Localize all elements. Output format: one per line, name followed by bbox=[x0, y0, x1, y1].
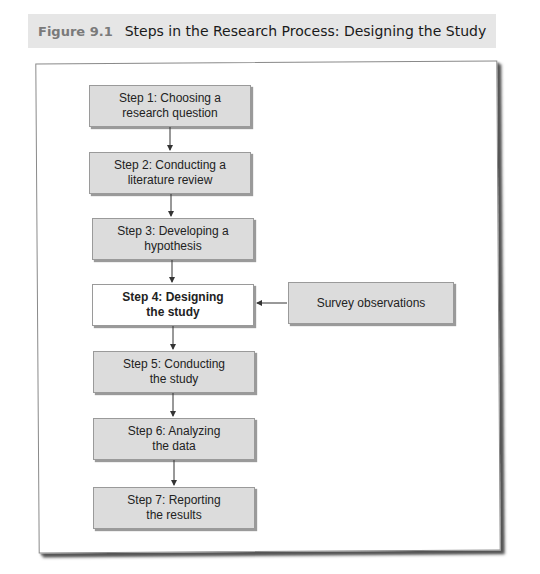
step-2-line2: literature review bbox=[128, 173, 213, 188]
step-3-line2: hypothesis bbox=[144, 239, 201, 254]
step-box-6: Step 6: Analyzing the data bbox=[93, 418, 255, 460]
step-box-3: Step 3: Developing a hypothesis bbox=[92, 218, 254, 260]
step-7-line1: Step 7: Reporting bbox=[127, 493, 220, 508]
step-box-5: Step 5: Conducting the study bbox=[93, 351, 255, 393]
step-5-line2: the study bbox=[150, 372, 199, 387]
figure-number: Figure 9.1 bbox=[38, 24, 113, 39]
step-4-line1: Step 4: Designing bbox=[122, 290, 223, 305]
figure-caption: Figure 9.1 Steps in the Research Process… bbox=[28, 14, 496, 48]
survey-observations-box: Survey observations bbox=[288, 282, 454, 324]
step-box-2: Step 2: Conducting a literature review bbox=[89, 152, 251, 194]
step-1-line1: Step 1: Choosing a bbox=[119, 91, 221, 106]
step-box-4-active: Step 4: Designing the study bbox=[92, 284, 254, 326]
step-2-line1: Step 2: Conducting a bbox=[114, 158, 226, 173]
step-1-line2: research question bbox=[122, 106, 217, 121]
step-3-line1: Step 3: Developing a bbox=[117, 224, 228, 239]
step-6-line1: Step 6: Analyzing bbox=[128, 424, 221, 439]
figure-title: Steps in the Research Process: Designing… bbox=[125, 23, 486, 39]
step-7-line2: the results bbox=[146, 508, 201, 523]
step-box-1: Step 1: Choosing a research question bbox=[89, 85, 251, 127]
step-4-line2: the study bbox=[146, 305, 199, 320]
survey-observations-label: Survey observations bbox=[317, 296, 426, 310]
step-5-line1: Step 5: Conducting bbox=[123, 357, 225, 372]
step-box-7: Step 7: Reporting the results bbox=[93, 487, 255, 529]
step-6-line2: the data bbox=[152, 439, 195, 454]
